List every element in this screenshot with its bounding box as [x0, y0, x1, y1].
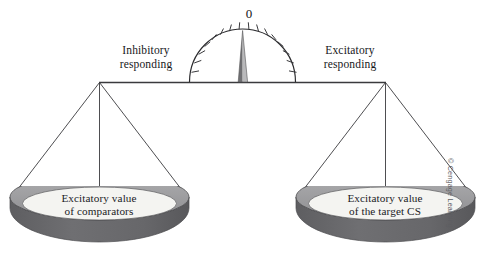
left-pan-label-line1: Excitatory value [61, 192, 136, 204]
right-pan-label: Excitatory value of the target CS [308, 192, 462, 218]
balance-scale-figure: Inhibitory responding Excitatory respond… [0, 0, 498, 267]
inhibitory-responding-label: Inhibitory responding [104, 44, 188, 71]
gauge [190, 22, 297, 82]
copyright-credit: © Cengage Learning [446, 158, 455, 254]
gauge-zero-label: 0 [234, 6, 264, 21]
excitatory-responding-label: Excitatory responding [308, 44, 392, 71]
left-suspension-lines [11, 83, 188, 199]
left-pan-label: Excitatory value of comparators [22, 192, 176, 218]
inhibitory-label-line1: Inhibitory [122, 44, 170, 56]
left-pan-label-line2: of comparators [22, 205, 176, 218]
scale-illustration [0, 0, 498, 267]
right-pan-label-line2: of the target CS [308, 205, 462, 218]
excitatory-label-line2: responding [308, 58, 392, 72]
inhibitory-label-line2: responding [104, 58, 188, 72]
excitatory-label-line1: Excitatory [325, 44, 374, 56]
right-pan-label-line1: Excitatory value [347, 192, 422, 204]
